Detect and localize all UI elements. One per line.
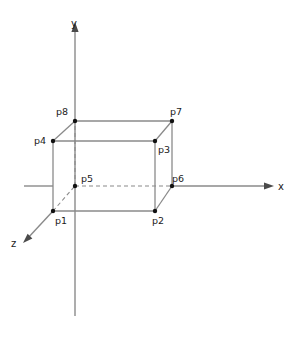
vertex-label-p6: p6: [172, 173, 184, 184]
vertex-label-p7: p7: [170, 106, 182, 117]
axis-group: [23, 22, 274, 316]
vertex-dot-p5: [73, 184, 77, 188]
vertex-dot-p4: [51, 139, 55, 143]
y-axis-label: y: [71, 18, 77, 29]
vertex-label-p2: p2: [152, 215, 164, 226]
edge-p1-p5: [53, 186, 75, 211]
axis-labels-group: y x z: [11, 18, 284, 249]
vertex-label-p3: p3: [158, 144, 170, 155]
vertex-label-p1: p1: [55, 215, 67, 226]
vertex-dot-p1: [51, 209, 55, 213]
edge-p4-p8: [53, 121, 75, 141]
z-axis-line: [27, 211, 53, 239]
visible-edges-group: [53, 121, 172, 211]
vertex-dot-p2: [153, 209, 157, 213]
vertex-label-p8: p8: [56, 106, 68, 117]
vertex-dot-p6: [170, 184, 174, 188]
vertex-dot-p7: [170, 119, 174, 123]
vertex-labels-group: p1 p2 p3 p4 p5 p6 p7 p8: [34, 106, 184, 226]
vertex-label-p4: p4: [34, 135, 46, 146]
vertex-label-p5: p5: [81, 173, 93, 184]
cube-diagram-figure: p1 p2 p3 p4 p5 p6 p7 p8 y x z: [0, 0, 296, 340]
vertex-dots-group: [51, 119, 174, 213]
x-axis-label: x: [278, 181, 284, 192]
vertex-dot-p3: [153, 139, 157, 143]
edge-p2-p6: [155, 186, 172, 211]
z-axis-label: z: [11, 238, 16, 249]
x-axis-arrowhead: [264, 182, 274, 189]
edge-p3-p7: [155, 121, 172, 141]
cube-diagram-canvas: p1 p2 p3 p4 p5 p6 p7 p8 y x z: [0, 0, 296, 340]
hidden-edges-group: [53, 121, 172, 211]
vertex-dot-p8: [73, 119, 77, 123]
